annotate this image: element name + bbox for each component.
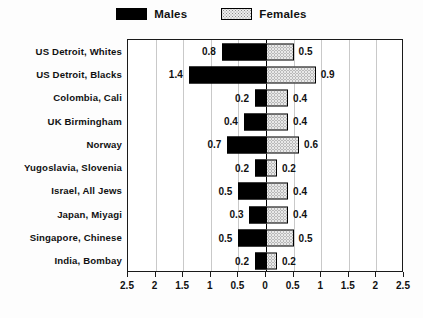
value-label-males: 0.2: [235, 93, 249, 104]
value-label-females: 0.4: [293, 186, 307, 197]
bar-females: [266, 43, 294, 60]
value-label-females: 0.4: [293, 93, 307, 104]
legend-swatch-males-icon: [116, 8, 147, 20]
bar-females: [266, 253, 277, 270]
x-tick: [210, 272, 211, 277]
bar-females: [266, 90, 288, 107]
bar-females: [266, 66, 316, 83]
value-label-females: 0.4: [293, 116, 307, 127]
x-tick-label: 2: [373, 280, 379, 291]
value-label-females: 0.5: [299, 233, 313, 244]
bar-males: [222, 43, 266, 60]
bar-males: [238, 230, 266, 247]
bar-males: [244, 113, 266, 130]
bar-row: 0.20.2: [128, 253, 402, 270]
value-label-males: 0.5: [219, 186, 233, 197]
bar-females: [266, 230, 294, 247]
legend-label-males: Males: [154, 8, 187, 20]
bar-females: [266, 136, 299, 153]
bar-males: [255, 90, 266, 107]
chart-legend: Males Females: [0, 4, 423, 24]
value-label-females: 0.9: [321, 69, 335, 80]
x-axis: 2.521.510.500.511.522.5: [127, 272, 403, 312]
bar-row: 0.20.2: [128, 160, 402, 177]
value-label-females: 0.6: [304, 139, 318, 150]
value-label-males: 0.7: [207, 139, 221, 150]
x-tick-label: 2.5: [396, 280, 410, 291]
x-tick: [403, 272, 404, 277]
x-tick: [265, 272, 266, 277]
value-label-females: 0.5: [299, 46, 313, 57]
value-label-males: 0.5: [219, 233, 233, 244]
bar-row: 1.40.9: [128, 66, 402, 83]
x-tick: [348, 272, 349, 277]
bar-males: [255, 160, 266, 177]
x-tick-label: 0.5: [230, 280, 244, 291]
value-label-females: 0.2: [282, 163, 296, 174]
bar-row: 0.30.4: [128, 206, 402, 223]
bar-males: [249, 206, 266, 223]
category-label: Singapore, Chinese: [0, 232, 122, 243]
category-label: Colombia, Cali: [0, 92, 122, 103]
x-tick-label: 0.5: [286, 280, 300, 291]
category-label: Israel, All Jews: [0, 185, 122, 196]
x-tick-label: 2: [152, 280, 158, 291]
bar-males: [189, 66, 266, 83]
bar-males: [227, 136, 266, 153]
value-label-males: 0.2: [235, 256, 249, 267]
chart-figure: Males Females US Detroit, WhitesUS Detro…: [0, 0, 423, 318]
bar-row: 0.50.5: [128, 230, 402, 247]
bar-row: 0.70.6: [128, 136, 402, 153]
x-tick-label: 2.5: [120, 280, 134, 291]
legend-item-males: Males: [116, 8, 187, 20]
bar-males: [255, 253, 266, 270]
category-label: India, Bombay: [0, 255, 122, 266]
bar-row: 0.40.4: [128, 113, 402, 130]
category-label: Yugoslavia, Slovenia: [0, 162, 122, 173]
bar-males: [238, 183, 266, 200]
value-label-males: 0.4: [224, 116, 238, 127]
value-label-males: 0.3: [230, 209, 244, 220]
x-tick: [293, 272, 294, 277]
x-tick-label: 1.5: [341, 280, 355, 291]
value-label-males: 0.2: [235, 163, 249, 174]
category-label: US Detroit, Whites: [0, 45, 122, 56]
category-label: Japan, Miyagi: [0, 208, 122, 219]
legend-label-females: Females: [259, 8, 306, 20]
bar-females: [266, 160, 277, 177]
bar-females: [266, 183, 288, 200]
x-tick: [375, 272, 376, 277]
value-label-males: 1.4: [169, 69, 183, 80]
legend-swatch-females-icon: [221, 8, 252, 20]
plot-area: 0.80.51.40.90.20.40.40.40.70.60.20.20.50…: [127, 39, 403, 272]
x-tick-label: 1: [317, 280, 323, 291]
x-tick-label: 0: [262, 280, 268, 291]
plot-inner: 0.80.51.40.90.20.40.40.40.70.60.20.20.50…: [128, 40, 402, 271]
bar-females: [266, 113, 288, 130]
category-label: UK Birmingham: [0, 115, 122, 126]
category-label: Norway: [0, 138, 122, 149]
x-tick: [155, 272, 156, 277]
value-label-females: 0.2: [282, 256, 296, 267]
bar-females: [266, 206, 288, 223]
value-label-females: 0.4: [293, 209, 307, 220]
x-tick: [237, 272, 238, 277]
x-tick: [320, 272, 321, 277]
x-tick-label: 1.5: [175, 280, 189, 291]
legend-item-females: Females: [221, 8, 306, 20]
bar-row: 0.50.4: [128, 183, 402, 200]
category-axis-labels: US Detroit, WhitesUS Detroit, BlacksColo…: [0, 39, 122, 272]
bar-row: 0.80.5: [128, 43, 402, 60]
x-tick-label: 1: [207, 280, 213, 291]
x-tick: [182, 272, 183, 277]
x-tick: [127, 272, 128, 277]
value-label-males: 0.8: [202, 46, 216, 57]
bar-row: 0.20.4: [128, 90, 402, 107]
category-label: US Detroit, Blacks: [0, 68, 122, 79]
